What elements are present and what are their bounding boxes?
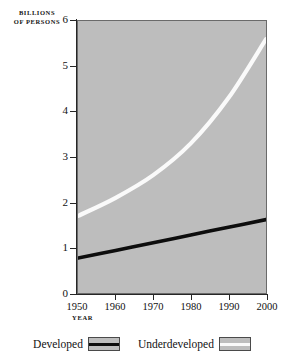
chart-legend: DevelopedUnderdeveloped [0, 332, 284, 356]
y-tick-label: 0 [6, 288, 68, 299]
y-tick-label-wrap: 6 [0, 14, 68, 25]
plot-svg [78, 21, 266, 293]
series-line-underdeveloped [78, 39, 266, 216]
x-tick-label: 1970 [133, 301, 173, 313]
legend-entry[interactable]: Underdeveloped [138, 337, 251, 351]
series-line-developed [78, 220, 266, 259]
legend-swatch [88, 337, 120, 351]
y-tick-mark [70, 248, 76, 249]
y-tick-label-wrap: 5 [0, 60, 68, 71]
plot-area [77, 20, 267, 294]
y-tick-label: 4 [6, 105, 68, 116]
y-tick-mark [70, 66, 76, 67]
y-tick-label: 5 [6, 60, 68, 71]
legend-entry[interactable]: Developed [33, 337, 120, 351]
y-tick-label: 2 [6, 197, 68, 208]
y-tick-label: 6 [6, 14, 68, 25]
y-tick-mark [70, 111, 76, 112]
x-tick-label: 1990 [209, 301, 249, 313]
y-tick-label: 1 [6, 242, 68, 253]
x-tick-mark [229, 295, 230, 300]
legend-swatch [219, 337, 251, 351]
y-tick-mark [70, 157, 76, 158]
x-tick-label: 1950 [57, 301, 97, 313]
x-tick-label: 2000 [247, 301, 284, 313]
y-tick-mark [70, 294, 76, 295]
legend-swatch-bar [220, 343, 250, 346]
population-line-chart: BILLIONS OF PERSONS 0123456 195019601970… [0, 0, 284, 360]
legend-swatch-bar [89, 343, 119, 346]
y-tick-label-wrap: 2 [0, 197, 68, 208]
y-tick-label-wrap: 3 [0, 151, 68, 162]
y-tick-label-wrap: 1 [0, 242, 68, 253]
x-tick-mark [267, 295, 268, 300]
x-tick-label: 1960 [95, 301, 135, 313]
x-tick-label: 1980 [171, 301, 211, 313]
y-tick-label-wrap: 0 [0, 288, 68, 299]
y-tick-mark [70, 203, 76, 204]
legend-label: Underdeveloped [138, 338, 214, 351]
x-axis-line [76, 294, 268, 295]
x-tick-mark [153, 295, 154, 300]
x-tick-mark [191, 295, 192, 300]
x-axis-caption: YEAR [72, 314, 93, 321]
y-tick-mark [70, 20, 76, 21]
legend-label: Developed [33, 338, 83, 351]
x-tick-mark [115, 295, 116, 300]
y-tick-label-wrap: 4 [0, 105, 68, 116]
y-tick-label: 3 [6, 151, 68, 162]
